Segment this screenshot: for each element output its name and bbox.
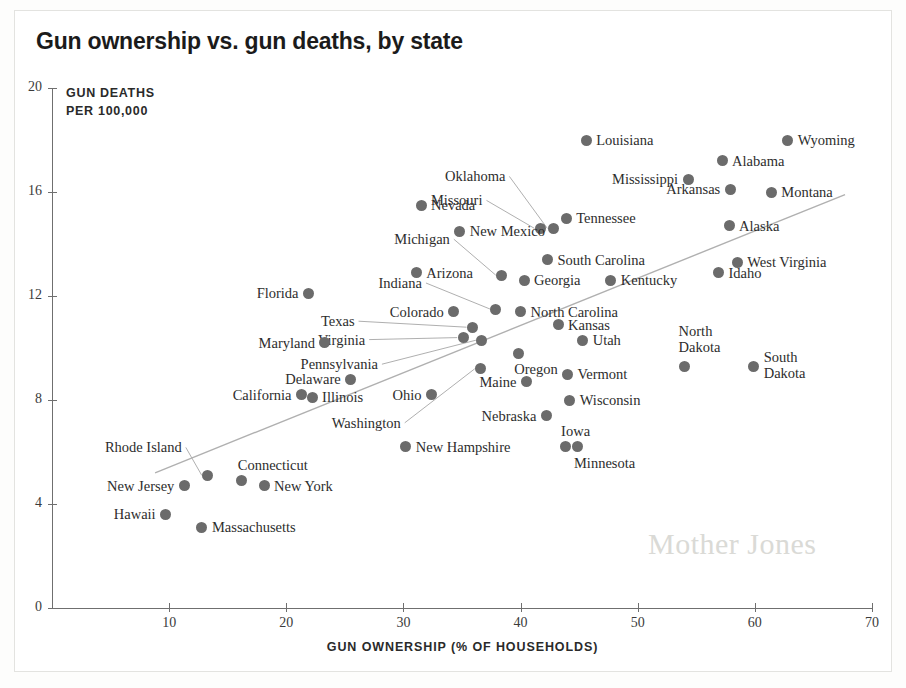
data-point-label: New Jersey [107, 478, 174, 494]
data-point-dot[interactable] [519, 275, 530, 286]
data-point-label: Washington [332, 415, 401, 431]
data-point-label: Maryland [259, 335, 315, 351]
data-point-dot[interactable] [553, 319, 564, 330]
data-point-dot[interactable] [458, 332, 469, 343]
data-point-dot[interactable] [717, 155, 728, 166]
data-point-dot[interactable] [748, 361, 759, 372]
data-point-label: Colorado [390, 303, 444, 319]
plot-overlay [0, 0, 906, 688]
data-point-label: Montana [781, 184, 833, 200]
data-point-dot[interactable] [454, 226, 465, 237]
data-point-label: Kansas [568, 316, 610, 332]
data-point-label: Indiana [378, 275, 421, 291]
data-point-label: Kentucky [621, 272, 677, 288]
data-point-label: Hawaii [114, 506, 156, 522]
leader-line [382, 340, 476, 364]
data-point-dot[interactable] [490, 304, 501, 315]
data-point-label: New Hampshire [416, 439, 511, 455]
data-point-label: Iowa [561, 423, 590, 439]
data-point-label: Maine [479, 374, 516, 390]
data-point-dot[interactable] [303, 288, 314, 299]
data-point-label: South Carolina [558, 251, 645, 267]
data-point-label: Arkansas [666, 181, 720, 197]
data-point-dot[interactable] [548, 223, 559, 234]
data-point-label: Minnesota [574, 455, 635, 471]
data-point-label: Louisiana [596, 132, 653, 148]
data-point-dot[interactable] [345, 374, 356, 385]
data-point-label: Idaho [729, 264, 762, 280]
data-point-dot[interactable] [725, 184, 736, 195]
leader-line [509, 176, 547, 228]
data-point-dot[interactable] [467, 322, 478, 333]
data-point-label: Utah [593, 332, 621, 348]
data-point-label: New York [274, 478, 333, 494]
data-point-label: Alaska [739, 218, 779, 234]
data-point-label: Vermont [577, 366, 627, 382]
leader-line [369, 338, 457, 340]
leader-line [186, 447, 202, 475]
data-point-label: Oregon [514, 361, 558, 377]
data-point-dot[interactable] [541, 410, 552, 421]
data-point-label: Rhode Island [105, 439, 182, 455]
data-point-dot[interactable] [416, 200, 427, 211]
data-point-label: Wisconsin [580, 392, 641, 408]
data-point-label: Tennessee [576, 210, 635, 226]
data-point-label: Michigan [394, 231, 450, 247]
data-point-label: NorthDakota [679, 324, 721, 355]
data-point-label: New Mexico [470, 223, 545, 239]
mother-jones-watermark: Mother Jones [648, 527, 816, 561]
data-point-dot[interactable] [160, 509, 171, 520]
data-point-dot[interactable] [577, 335, 588, 346]
data-point-label: SouthDakota [764, 350, 806, 381]
data-point-label: Texas [321, 313, 355, 329]
data-point-dot[interactable] [782, 135, 793, 146]
data-point-dot[interactable] [562, 369, 573, 380]
data-point-label: California [233, 387, 292, 403]
data-point-label: Arizona [426, 264, 473, 280]
leader-line [359, 321, 467, 327]
data-point-dot[interactable] [307, 392, 318, 403]
data-point-dot[interactable] [724, 220, 735, 231]
data-point-label: Alabama [732, 153, 784, 169]
data-point-label: Illinois [322, 389, 363, 405]
data-point-dot[interactable] [564, 395, 575, 406]
data-point-label: Nevada [431, 197, 475, 213]
data-point-dot[interactable] [679, 361, 690, 372]
data-point-label: Massachusetts [212, 519, 296, 535]
data-point-dot[interactable] [259, 480, 270, 491]
data-point-label: Ohio [393, 387, 422, 403]
chart-figure: Gun ownership vs. gun deaths, by state G… [0, 0, 906, 688]
data-point-dot[interactable] [496, 270, 507, 281]
data-point-label: Oklahoma [445, 168, 505, 184]
data-point-label: Delaware [285, 371, 341, 387]
data-point-dot[interactable] [766, 187, 777, 198]
data-point-dot[interactable] [513, 348, 524, 359]
data-point-dot[interactable] [561, 213, 572, 224]
data-point-label: Florida [257, 285, 299, 301]
data-point-label: Georgia [534, 272, 580, 288]
data-point-label: Connecticut [238, 457, 308, 473]
data-point-dot[interactable] [560, 441, 571, 452]
data-point-dot[interactable] [581, 135, 592, 146]
data-point-label: Wyoming [798, 132, 855, 148]
data-point-label: Pennsylvania [301, 356, 378, 372]
data-point-label: Nebraska [482, 407, 537, 423]
